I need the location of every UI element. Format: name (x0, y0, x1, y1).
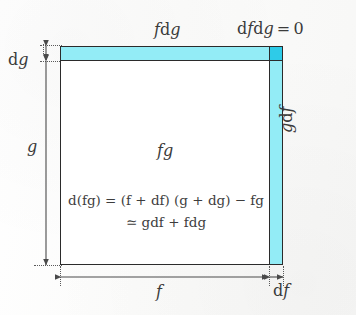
guide-bottom-left-tick (60, 266, 61, 286)
label-right-strip: gdf (279, 107, 295, 133)
top-cyan-strip-fdg (60, 46, 283, 61)
label-center-area: fg (157, 143, 173, 159)
equation-line-2: ≃ gdf + fdg (63, 211, 269, 233)
label-left-large-dimension: g (27, 139, 37, 155)
guide-bottom-left (34, 265, 62, 266)
label-top-strip: fdg (154, 22, 180, 38)
label-bottom-large-dimension: f (156, 284, 162, 300)
product-rule-diagram: fdg dfdg = 0 dg g gdf fg f df d(fg) = (f… (0, 0, 356, 315)
label-left-small-dimension: dg (8, 52, 29, 68)
corner-square-dfdg (269, 46, 283, 61)
label-corner-square: dfdg = 0 (237, 21, 304, 37)
label-bottom-small-dimension: df (273, 283, 289, 299)
guide-top-inner (40, 61, 62, 62)
right-cyan-strip-gdf (269, 46, 283, 265)
guide-top-outer (40, 45, 62, 46)
equation-line-1: d(fg) = (f + df) (g + dg) − fg (63, 189, 269, 211)
guide-bottom-mid-tick (269, 266, 270, 286)
equation-block: d(fg) = (f + df) (g + dg) − fg ≃ gdf + f… (63, 189, 269, 234)
